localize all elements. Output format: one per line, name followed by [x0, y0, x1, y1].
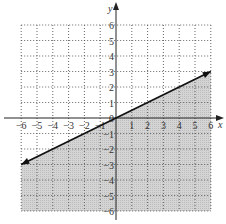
- y-tick-label: −6: [103, 206, 114, 217]
- y-tick-label: −2: [103, 144, 114, 155]
- y-tick-label: −3: [103, 160, 114, 171]
- x-tick-label: −2: [79, 120, 90, 131]
- line-arrow-left-icon: [21, 158, 30, 164]
- y-axis-label: y: [107, 3, 113, 14]
- y-axis-arrow-icon: [113, 2, 119, 10]
- x-tick-label: 3: [161, 120, 166, 131]
- x-axis-label: x: [217, 119, 223, 130]
- y-tick-label: −4: [103, 175, 114, 186]
- y-tick-label: 5: [109, 36, 114, 47]
- x-tick-label: 6: [208, 120, 213, 131]
- y-tick-label: 3: [109, 67, 114, 78]
- x-tick-label: −5: [32, 120, 43, 131]
- y-tick-label: 1: [109, 98, 114, 109]
- y-tick-label: 6: [109, 20, 114, 31]
- x-tick-label: 4: [177, 120, 182, 131]
- x-tick-label: 1: [129, 120, 134, 131]
- x-tick-label: 2: [145, 120, 150, 131]
- x-tick-label: −4: [47, 120, 58, 131]
- x-tick-label: −3: [63, 120, 74, 131]
- y-tick-label: −1: [103, 129, 114, 140]
- y-tick-label: 2: [109, 82, 114, 93]
- x-tick-label: 5: [193, 120, 198, 131]
- x-tick-label: −6: [16, 120, 27, 131]
- coordinate-plane: −6−5−4−3−2−1123456−6−5−4−3−2−10123456 x …: [0, 0, 226, 224]
- y-tick-label: 4: [109, 51, 114, 62]
- y-tick-label: −5: [103, 191, 114, 202]
